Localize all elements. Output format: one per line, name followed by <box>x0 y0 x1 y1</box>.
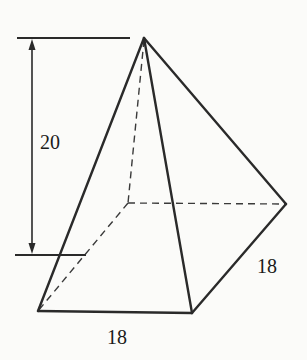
hidden-edge-left <box>38 203 128 311</box>
hidden-edge-apex-backleft <box>128 40 144 203</box>
edge-apex-frontleft <box>38 38 144 311</box>
edge-base-front <box>38 311 192 313</box>
hidden-edge-back <box>128 203 286 204</box>
edge-apex-backright <box>144 38 286 204</box>
arrow-up-icon <box>29 39 36 50</box>
base-front-label: 18 <box>107 327 127 347</box>
base-side-label: 18 <box>257 256 277 276</box>
pyramid-diagram <box>0 0 307 360</box>
edge-apex-frontright <box>144 38 192 313</box>
arrow-down-icon <box>29 243 36 254</box>
height-label: 20 <box>40 132 60 152</box>
